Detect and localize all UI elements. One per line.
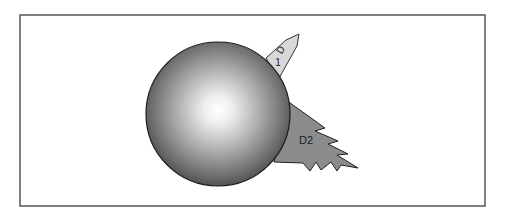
sphere bbox=[146, 42, 290, 186]
flame-d2-label: D2 bbox=[299, 134, 313, 146]
pointer-d1-number: 1 bbox=[275, 57, 281, 68]
diagram-canvas: D 1 D2 bbox=[0, 0, 509, 217]
